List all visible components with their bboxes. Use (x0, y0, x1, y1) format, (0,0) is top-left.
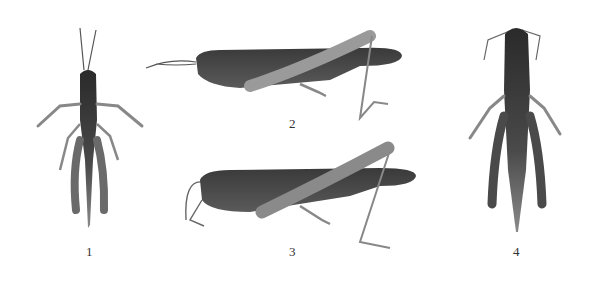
specimen-plate (0, 0, 597, 282)
figure-label-2: 2 (289, 116, 296, 132)
grasshopper-figure-1 (38, 28, 142, 228)
figure-label-4: 4 (513, 244, 520, 260)
grasshopper-figure-3 (186, 148, 416, 248)
grasshopper-figure-2 (146, 36, 402, 118)
grasshopper-figure-4 (470, 28, 560, 232)
figure-label-3: 3 (289, 244, 296, 260)
figure-label-1: 1 (86, 244, 93, 260)
